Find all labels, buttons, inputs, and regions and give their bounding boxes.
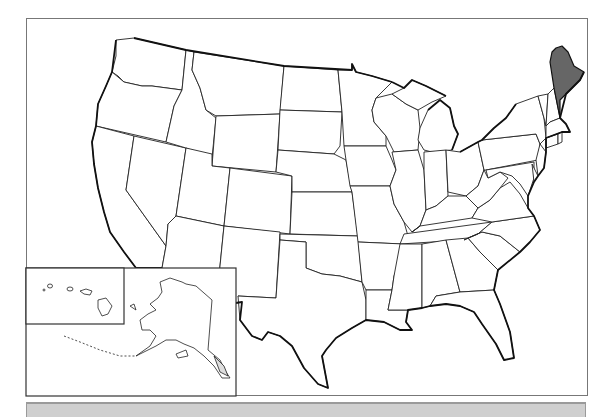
us-map [0, 0, 611, 417]
state-kansas[interactable] [290, 192, 358, 236]
inset-region [26, 268, 236, 396]
hawaii-inset-box [26, 268, 124, 324]
state-south-dakota[interactable] [278, 110, 342, 154]
state-north-dakota[interactable] [280, 66, 342, 112]
state-colorado[interactable] [224, 168, 292, 234]
state-michigan[interactable] [418, 100, 458, 152]
state-florida[interactable] [430, 290, 514, 360]
state-iowa[interactable] [344, 146, 396, 186]
state-montana[interactable] [192, 52, 284, 116]
bottom-bar [26, 402, 586, 417]
state-wyoming[interactable] [212, 114, 280, 172]
